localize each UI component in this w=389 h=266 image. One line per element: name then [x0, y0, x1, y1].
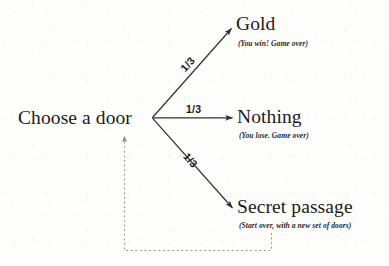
node-root-label: Choose a door: [18, 108, 132, 128]
diagram-canvas: Choose a door Gold (You win! Game over) …: [0, 0, 389, 266]
node-secret-passage-label: Secret passage: [237, 197, 353, 217]
node-nothing-label: Nothing: [237, 107, 302, 127]
node-gold-label: Gold: [236, 14, 275, 34]
edge-feedback-loop: [125, 136, 272, 251]
edge-label-nothing-probability: 1/3: [186, 104, 201, 115]
node-nothing-subtitle: (You lose. Game over): [239, 132, 309, 140]
node-gold-subtitle: (You win! Game over): [238, 40, 308, 48]
node-secret-passage-subtitle: (Start over, with a new set of doors): [239, 222, 351, 230]
